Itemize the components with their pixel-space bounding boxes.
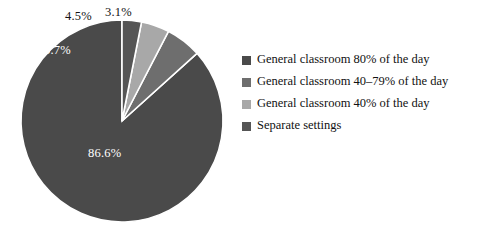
pie-plot-area: 3.1% 4.5% 5.7% 86.6% xyxy=(0,0,240,232)
slice-value-label-general-classroom-40-79: 5.7% xyxy=(44,44,71,57)
legend-item-label: General classroom 40–79% of the day xyxy=(257,74,448,89)
legend-swatch-icon xyxy=(242,100,251,109)
pie-chart-figure: 3.1% 4.5% 5.7% 86.6% General classroom 8… xyxy=(0,0,477,232)
legend-item-general-classroom-40: General classroom 40% of the day xyxy=(242,96,474,118)
legend-item-separate-settings: Separate settings xyxy=(242,118,474,140)
pie-svg xyxy=(0,0,240,232)
slice-value-label-general-classroom-80: 86.6% xyxy=(88,147,121,160)
slice-value-label-general-classroom-40: 4.5% xyxy=(65,10,92,23)
legend-item-label: General classroom 40% of the day xyxy=(257,96,430,111)
legend-item-label: Separate settings xyxy=(257,118,341,133)
legend-swatch-icon xyxy=(242,56,251,65)
legend-item-general-classroom-80: General classroom 80% of the day xyxy=(242,52,474,74)
legend-swatch-icon xyxy=(242,122,251,131)
legend: General classroom 80% of the day General… xyxy=(242,52,474,140)
slice-value-label-separate-settings: 3.1% xyxy=(105,6,132,19)
legend-item-general-classroom-40-79: General classroom 40–79% of the day xyxy=(242,74,474,96)
legend-item-label: General classroom 80% of the day xyxy=(257,52,430,67)
legend-swatch-icon xyxy=(242,78,251,87)
